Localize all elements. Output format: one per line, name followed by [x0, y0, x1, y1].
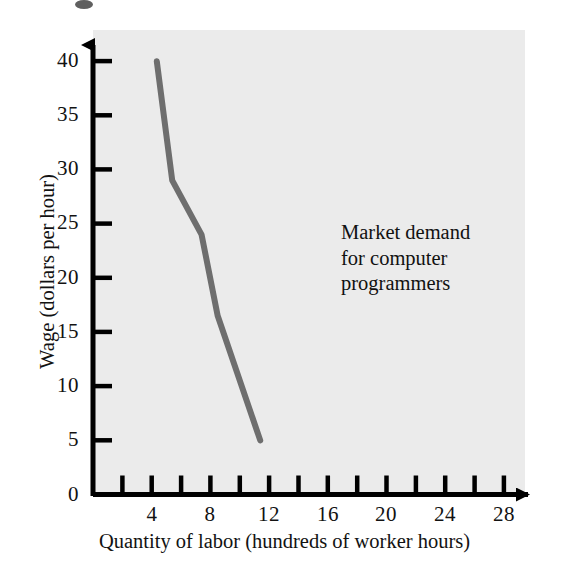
x-tick-label-28: 28 — [482, 504, 526, 525]
x-tick-label-8: 8 — [188, 504, 232, 525]
chart-figure: 40 35 30 25 20 15 10 5 0 4 8 12 16 20 24… — [0, 0, 569, 564]
y-tick-label-5: 5 — [33, 429, 79, 450]
demand-curve-line — [157, 61, 260, 440]
market-demand-annotation: Market demand for computer programmers — [341, 220, 470, 297]
chart-canvas — [0, 0, 569, 564]
x-axis-ticks — [122, 476, 504, 495]
x-tick-label-20: 20 — [364, 504, 408, 525]
x-tick-label-16: 16 — [306, 504, 350, 525]
x-axis — [93, 476, 528, 495]
x-axis-title: Quantity of labor (hundreds of worker ho… — [0, 530, 569, 553]
y-axis-title: Wage (dollars per hour) — [36, 122, 59, 422]
y-axis-ticks — [93, 61, 112, 440]
y-tick-label-40: 40 — [33, 50, 79, 71]
x-tick-label-12: 12 — [247, 504, 291, 525]
y-tick-label-0: 0 — [33, 484, 79, 505]
y-axis — [93, 45, 112, 496]
x-tick-label-24: 24 — [423, 504, 467, 525]
x-tick-label-4: 4 — [130, 504, 174, 525]
